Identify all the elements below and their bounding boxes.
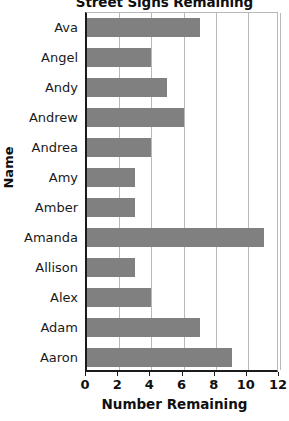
x-tick-label-10: 10 [237,377,255,392]
bar-chart: Street Signs Remaining Name AvaAngelAndy… [0,0,289,421]
gridline [280,13,281,370]
x-tick-mark [278,372,279,376]
y-tick-label-andrew: Andrew [29,110,78,125]
y-tick-label-ava: Ava [54,20,78,35]
y-tick-label-wrap: Alex [85,282,278,312]
y-tick-label-wrap: Amy [85,162,278,192]
y-tick-label-alex: Alex [50,290,78,305]
x-axis: 024681012 [85,372,278,394]
x-tick-label-2: 2 [113,377,122,392]
y-tick-label-angel: Angel [41,50,78,65]
y-tick-label-andy: Andy [45,80,78,95]
y-tick-label-wrap: Aaron [85,342,278,372]
x-tick-mark [182,372,183,376]
y-tick-label-allison: Allison [35,260,78,275]
y-tick-label-wrap: Andrea [85,132,278,162]
x-tick-label-0: 0 [80,377,89,392]
y-tick-label-adam: Adam [40,320,78,335]
x-tick-label-4: 4 [145,377,154,392]
x-tick-mark [85,372,86,376]
y-axis-title: Name [1,138,16,198]
chart-title: Street Signs Remaining [40,0,289,10]
y-tick-label-wrap: Allison [85,252,278,282]
y-tick-label-wrap: Ava [85,12,278,42]
y-tick-label-wrap: Adam [85,312,278,342]
y-axis-tick-labels: AvaAngelAndyAndrewAndreaAmyAmberAmandaAl… [85,12,278,372]
x-tick-label-8: 8 [209,377,218,392]
y-tick-label-wrap: Andy [85,72,278,102]
y-tick-label-amber: Amber [35,200,78,215]
y-tick-label-wrap: Amber [85,192,278,222]
x-tick-mark [214,372,215,376]
y-tick-label-amanda: Amanda [24,230,78,245]
x-tick-mark [149,372,150,376]
x-axis-title: Number Remaining [60,396,289,412]
y-tick-label-aaron: Aaron [40,350,78,365]
x-tick-mark [117,372,118,376]
y-tick-label-wrap: Angel [85,42,278,72]
x-tick-label-12: 12 [269,377,287,392]
x-tick-label-6: 6 [177,377,186,392]
y-tick-label-amy: Amy [49,170,78,185]
y-tick-label-wrap: Andrew [85,102,278,132]
y-tick-label-wrap: Amanda [85,222,278,252]
y-tick-label-andrea: Andrea [32,140,78,155]
x-tick-mark [246,372,247,376]
